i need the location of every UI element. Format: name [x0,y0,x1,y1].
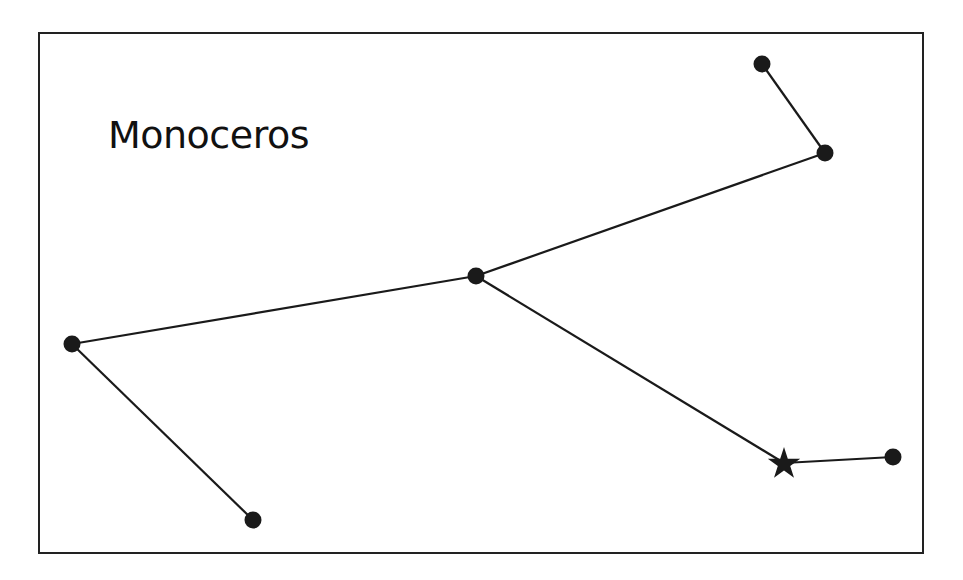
star-dot [885,449,902,466]
star-dot [468,268,485,285]
connection-line [476,153,825,276]
connection-line [72,276,476,344]
connection-line [762,64,825,153]
star-dot [245,512,262,529]
constellation-lines [72,64,893,520]
connection-line [476,276,784,463]
star-dot [64,336,81,353]
star-dot [754,56,771,73]
star-dot [817,145,834,162]
constellation-diagram [0,0,963,580]
connection-line [784,457,893,463]
connection-line [72,344,253,520]
